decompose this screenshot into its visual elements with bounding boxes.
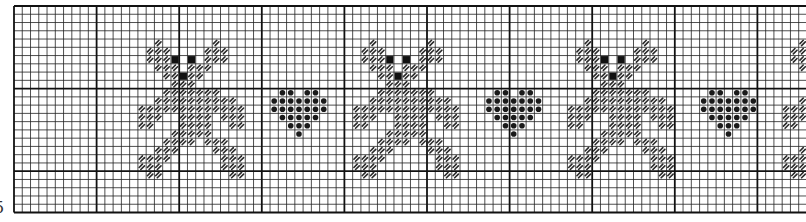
stitch-hatch-icon (577, 123, 580, 126)
stitch-hatch-icon (585, 164, 588, 167)
heart-dot-icon (709, 115, 715, 121)
stitch-hatch-icon (420, 65, 423, 68)
stitch-hatch-icon (362, 172, 365, 175)
stitch-hatch-icon (180, 123, 183, 126)
stitch-hatch-icon (651, 49, 654, 52)
stitch-hatch-icon (387, 82, 390, 85)
heart-dot-icon (304, 98, 310, 104)
stitch-hatch-icon (453, 106, 456, 109)
heart-dot-icon (494, 115, 500, 121)
heart-dot-icon (486, 106, 492, 112)
stitch-hatch-icon (412, 98, 415, 101)
stitch-hatch-icon (147, 106, 150, 109)
stitch-hatch-icon (189, 90, 192, 93)
stitch-hatch-icon (577, 106, 580, 109)
stitch-hatch-icon (445, 106, 448, 109)
heart-dot-icon (296, 106, 302, 112)
stitch-hatch-icon (164, 98, 167, 101)
stitch-hatch-icon (362, 156, 365, 159)
stitch-hatch-icon (172, 98, 175, 101)
stitch-hatch-icon (585, 115, 588, 118)
stitch-hatch-icon (370, 40, 373, 43)
stitch-hatch-icon (156, 57, 159, 60)
heart-dot-icon (304, 123, 310, 129)
stitch-hatch-icon (403, 65, 406, 68)
heart-dot-icon (734, 123, 740, 129)
heart-dot-icon (313, 115, 319, 121)
stitch-hatch-icon (800, 40, 803, 43)
stitch-hatch-icon (626, 115, 629, 118)
stitch-hatch-icon (585, 106, 588, 109)
heart-dot-icon (717, 90, 723, 96)
stitch-hatch-icon (370, 106, 373, 109)
stitch-hatch-icon (436, 98, 439, 101)
stitch-hatch-icon (230, 156, 233, 159)
stitch-hatch-icon (626, 65, 629, 68)
stitch-hatch-icon (660, 106, 663, 109)
stitch-hatch-icon (238, 156, 241, 159)
stitch-hatch-icon (387, 106, 390, 109)
stitch-hatch-icon (792, 49, 795, 52)
stitch-hatch-icon (800, 148, 803, 151)
heart-dot-icon (750, 98, 756, 104)
stitch-hatch-icon (156, 65, 159, 68)
heart-dot-icon (288, 106, 294, 112)
stitch-hatch-icon (180, 98, 183, 101)
heart-dot-icon (288, 123, 294, 129)
stitch-hatch-icon (230, 172, 233, 175)
stitch-hatch-icon (222, 106, 225, 109)
stitch-hatch-icon (643, 90, 646, 93)
stitch-hatch-icon (222, 148, 225, 151)
stitch-hatch-icon (379, 65, 382, 68)
stitch-hatch-icon (602, 148, 605, 151)
stitch-hatch-icon (800, 57, 803, 60)
stitch-hatch-icon (420, 57, 423, 60)
heart-dot-icon (511, 123, 517, 129)
heart-dot-icon (288, 98, 294, 104)
stitch-hatch-icon (222, 164, 225, 167)
stitch-hatch-icon (651, 98, 654, 101)
stitch-hatch-icon (651, 115, 654, 118)
stitch-hatch-icon (800, 98, 803, 101)
stitch-hatch-icon (626, 123, 629, 126)
heart-dot-icon (750, 106, 756, 112)
heart-dot-icon (726, 123, 732, 129)
stitch-hatch-icon (428, 49, 431, 52)
heart-dot-icon (511, 131, 517, 137)
teddy-bear-motif (783, 40, 805, 178)
stitch-hatch-icon (453, 123, 456, 126)
stitch-hatch-icon (643, 49, 646, 52)
heart-dot-icon (701, 98, 707, 104)
stitch-hatch-icon (660, 115, 663, 118)
stitch-hatch-icon (370, 57, 373, 60)
stitch-hatch-icon (164, 73, 167, 76)
stitch-hatch-icon (660, 123, 663, 126)
heart-dot-icon (511, 98, 517, 104)
stitch-hatch-icon (222, 98, 225, 101)
stitch-hatch-icon (436, 148, 439, 151)
stitch-hatch-icon (800, 49, 803, 52)
stitch-hatch-icon (569, 106, 572, 109)
stitch-hatch-icon (395, 82, 398, 85)
stitch-hatch-icon (197, 131, 200, 134)
stitch-hatch-icon (395, 123, 398, 126)
stitch-hatch-icon (197, 106, 200, 109)
stitch-hatch-icon (800, 115, 803, 118)
heart-dot-icon (527, 90, 533, 96)
bear-eye-square-icon (403, 56, 410, 63)
heart-dot-icon (709, 106, 715, 112)
stitch-hatch-icon (618, 73, 621, 76)
stitch-hatch-icon (147, 115, 150, 118)
stitch-hatch-icon (230, 106, 233, 109)
stitch-hatch-icon (205, 115, 208, 118)
stitch-hatch-icon (635, 115, 638, 118)
stitch-hatch-icon (569, 115, 572, 118)
stitch-hatch-icon (370, 164, 373, 167)
stitch-hatch-icon (602, 73, 605, 76)
heart-dot-icon (511, 115, 517, 121)
stitch-hatch-icon (403, 82, 406, 85)
stitch-hatch-icon (213, 49, 216, 52)
stitch-hatch-icon (362, 57, 365, 60)
stitch-hatch-icon (387, 65, 390, 68)
stitch-hatch-icon (172, 148, 175, 151)
